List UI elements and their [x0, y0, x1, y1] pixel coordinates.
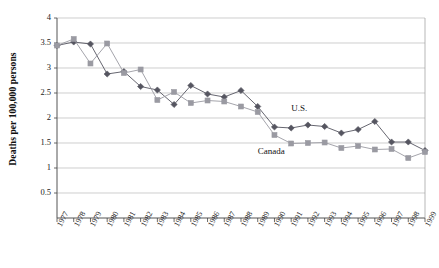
- series-label-us: U.S.: [291, 103, 307, 113]
- y-axis-tick: 0.5: [25, 188, 51, 197]
- y-axis-tick: 2.5: [25, 88, 51, 97]
- y-axis-tick: 3: [25, 63, 51, 72]
- y-axis-tick: 1: [25, 163, 51, 172]
- y-axis-tick: 4: [25, 13, 51, 22]
- y-axis-tick: 1.5: [25, 138, 51, 147]
- plot-area: [0, 0, 439, 268]
- series-label-canada: Canada: [258, 146, 285, 156]
- y-axis-title-wrapper: Deaths per 100,000 persons: [2, 0, 24, 218]
- line-chart: Deaths per 100,000 persons 0.511.522.533…: [0, 0, 439, 268]
- y-axis-tick: 2: [25, 113, 51, 122]
- y-axis-tick: 3.5: [25, 38, 51, 47]
- y-axis-title: Deaths per 100,000 persons: [8, 52, 18, 165]
